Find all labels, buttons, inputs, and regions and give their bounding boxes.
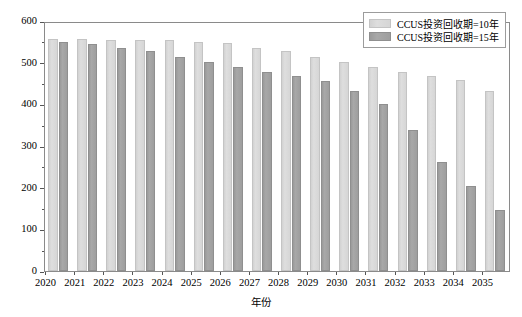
x-tick-mark [103, 272, 104, 275]
bar-2023-series-0 [135, 40, 145, 271]
bar-2028-series-1 [292, 76, 302, 271]
bar-2034-series-0 [456, 80, 466, 271]
x-tick-mark [162, 272, 163, 275]
x-tick-mark [365, 272, 366, 275]
x-tick-label: 2033 [408, 277, 440, 288]
bar-2032-series-0 [398, 72, 408, 271]
y-tick-label: 500 [21, 57, 37, 68]
x-tick-mark [220, 272, 221, 275]
x-tick-mark [74, 272, 75, 275]
bar-2024-series-1 [175, 57, 185, 271]
x-tick-label: 2020 [30, 277, 62, 288]
bar-2021-series-0 [77, 39, 87, 271]
bar-2029-series-1 [321, 81, 331, 271]
bar-2026-series-0 [223, 43, 233, 271]
x-tick-mark [395, 272, 396, 275]
legend-swatch-icon-series-0 [369, 19, 391, 28]
bar-2035-series-0 [485, 91, 495, 271]
legend-label-series-1: CCUS投资回收期=15年 [397, 29, 499, 44]
x-tick-label: 2023 [117, 277, 149, 288]
bar-2031-series-1 [379, 104, 389, 271]
y-tick-label: 400 [21, 98, 37, 109]
x-tick-mark [482, 272, 483, 275]
bar-2027-series-1 [262, 72, 272, 271]
legend-swatch-icon-series-1 [369, 32, 391, 41]
x-tick-label: 2022 [88, 277, 120, 288]
bar-2025-series-0 [194, 42, 204, 271]
chart-legend: CCUS投资回收期=10年 CCUS投资回收期=15年 [363, 12, 506, 48]
bar-2026-series-1 [233, 67, 243, 271]
x-tick-label: 2029 [292, 277, 324, 288]
x-tick-label: 2034 [437, 277, 469, 288]
bar-2020-series-0 [48, 39, 58, 271]
plot-area [44, 22, 510, 272]
bar-2030-series-1 [350, 91, 360, 271]
x-tick-label: 2027 [233, 277, 265, 288]
bar-2031-series-0 [368, 67, 378, 271]
x-tick-label: 2028 [263, 277, 295, 288]
x-tick-label: 2035 [466, 277, 498, 288]
x-tick-mark [191, 272, 192, 275]
bar-2024-series-0 [165, 40, 175, 271]
x-axis-title: 年份 [0, 294, 522, 309]
x-tick-mark [132, 272, 133, 275]
x-tick-label: 2031 [350, 277, 382, 288]
bar-2033-series-0 [427, 76, 437, 271]
x-tick-mark [249, 272, 250, 275]
bar-2025-series-1 [204, 62, 214, 271]
bar-2029-series-0 [310, 57, 320, 271]
y-tick-label: 300 [21, 140, 37, 151]
x-tick-mark [45, 272, 46, 275]
bar-2022-series-0 [106, 40, 116, 271]
x-tick-label: 2024 [146, 277, 178, 288]
bar-2027-series-0 [252, 48, 262, 271]
x-tick-mark [424, 272, 425, 275]
x-tick-label: 2032 [379, 277, 411, 288]
x-tick-mark [336, 272, 337, 275]
bar-2028-series-0 [281, 51, 291, 271]
x-tick-mark [453, 272, 454, 275]
x-tick-label: 2026 [204, 277, 236, 288]
chart-figure: 燃煤电厂CCUS改造潜力(GW) 0100200300400500600 202… [0, 0, 522, 317]
y-tick-label: 200 [21, 182, 37, 193]
bar-2035-series-1 [495, 210, 505, 271]
bar-2030-series-0 [339, 62, 349, 271]
bar-2032-series-1 [408, 130, 418, 271]
x-tick-mark [307, 272, 308, 275]
bar-2033-series-1 [437, 162, 447, 271]
bar-2022-series-1 [117, 48, 127, 271]
bar-2020-series-1 [59, 42, 69, 271]
bar-2023-series-1 [146, 51, 156, 271]
x-tick-label: 2021 [59, 277, 91, 288]
legend-item-series-1[interactable]: CCUS投资回收期=15年 [369, 30, 499, 43]
bar-2034-series-1 [466, 186, 476, 271]
y-tick-label: 600 [21, 15, 37, 26]
x-tick-label: 2025 [175, 277, 207, 288]
y-tick-label: 0 [32, 265, 37, 276]
x-tick-mark [278, 272, 279, 275]
x-tick-label: 2030 [321, 277, 353, 288]
bar-2021-series-1 [88, 44, 98, 272]
y-tick-label: 100 [21, 223, 37, 234]
